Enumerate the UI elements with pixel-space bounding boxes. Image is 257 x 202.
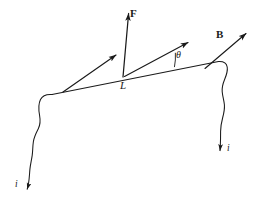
force-vector [123,14,129,78]
field-vector-left [63,55,116,92]
angle-theta-label: θ [176,50,181,60]
straight-wire-segment [52,62,219,95]
physics-diagram-figure: F B L θ i i [0,0,257,202]
force-vector-label: F [130,8,137,19]
current-label-left: i [15,180,18,190]
length-segment-label: L [120,80,126,91]
field-vector-label: B [216,29,223,40]
current-label-right: i [227,144,230,154]
right-lead-wire [219,61,228,150]
left-lead-wire [27,94,52,189]
